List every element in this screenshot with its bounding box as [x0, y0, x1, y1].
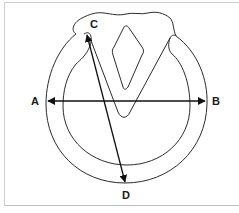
- inner-sole-boundary: [63, 33, 190, 165]
- label-c: C: [90, 18, 98, 30]
- central-diamond: [112, 26, 143, 89]
- label-a: A: [31, 95, 39, 107]
- frog-v-shape: [90, 38, 170, 117]
- hoof-diagram: A B C D: [0, 0, 239, 213]
- length-arrow-cd: [87, 35, 125, 182]
- outer-hoof-wall: [46, 12, 207, 183]
- label-d: D: [122, 189, 130, 201]
- label-b: B: [212, 95, 220, 107]
